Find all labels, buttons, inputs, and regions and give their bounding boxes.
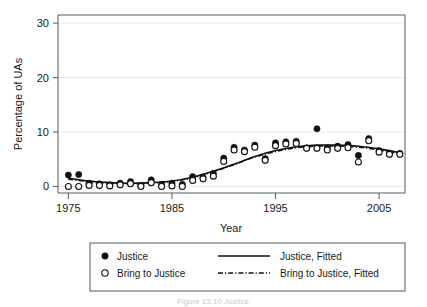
data-point-open — [397, 151, 403, 157]
data-point-open — [65, 183, 71, 189]
legend-label-marker-1: Bring to Justice — [117, 268, 186, 279]
legend-label-line-1: Bring to Justice, Fitted — [280, 268, 379, 279]
data-point-open — [304, 145, 310, 151]
chart-svg: 0102030 1975198519952005 Percentage of U… — [0, 0, 427, 307]
y-tick-label-20: 20 — [37, 72, 49, 84]
data-point-open — [314, 145, 320, 151]
y-axis-ticks: 0102030 — [37, 17, 58, 192]
data-point-filled — [65, 172, 71, 178]
y-axis-title: Percentage of UAs — [12, 57, 24, 150]
x-axis-ticks: 1975198519952005 — [56, 193, 391, 214]
data-point-open — [86, 182, 92, 188]
data-point-open — [117, 182, 123, 188]
data-point-filled — [76, 171, 82, 177]
y-tick-label-0: 0 — [43, 180, 49, 192]
data-point-open — [376, 149, 382, 155]
x-axis-title: Year — [220, 222, 243, 234]
data-point-open — [324, 147, 330, 153]
data-point-open — [200, 176, 206, 182]
data-point-open — [179, 183, 185, 189]
data-point-open — [138, 183, 144, 189]
data-point-open — [273, 143, 279, 149]
x-tick-label-1995: 1995 — [263, 202, 287, 214]
data-point-open — [366, 138, 372, 144]
data-point-filled — [355, 152, 361, 158]
y-tick-label-30: 30 — [37, 17, 49, 29]
y-tick-label-10: 10 — [37, 126, 49, 138]
data-point-open — [169, 183, 175, 189]
data-point-open — [107, 183, 113, 189]
data-point-open — [386, 151, 392, 157]
legend-label-marker-0: Justice — [117, 251, 149, 262]
data-point-open — [159, 183, 165, 189]
data-point-open — [252, 144, 258, 150]
data-point-open — [210, 173, 216, 179]
data-point-open — [345, 145, 351, 151]
x-tick-label-1975: 1975 — [56, 202, 80, 214]
open-circle-icon — [102, 270, 108, 276]
data-point-open — [283, 141, 289, 147]
x-tick-label-2005: 2005 — [367, 202, 391, 214]
legend-label-line-0: Justice, Fitted — [280, 251, 342, 262]
data-point-open — [335, 145, 341, 151]
data-point-open — [293, 140, 299, 146]
data-point-open — [241, 149, 247, 155]
data-point-open — [76, 183, 82, 189]
data-point-open — [190, 177, 196, 183]
data-point-open — [128, 181, 134, 187]
filled-circle-icon — [102, 253, 108, 259]
data-point-open — [96, 182, 102, 188]
figure-caption: Figure 13.10 Justice — [177, 297, 250, 306]
x-tick-label-1985: 1985 — [160, 202, 184, 214]
data-point-open — [231, 147, 237, 153]
data-point-open — [148, 180, 154, 186]
data-point-open — [355, 159, 361, 165]
data-point-open — [262, 157, 268, 163]
data-point-filled — [314, 126, 320, 132]
figure-container: 0102030 1975198519952005 Percentage of U… — [0, 0, 427, 307]
data-point-open — [221, 158, 227, 164]
